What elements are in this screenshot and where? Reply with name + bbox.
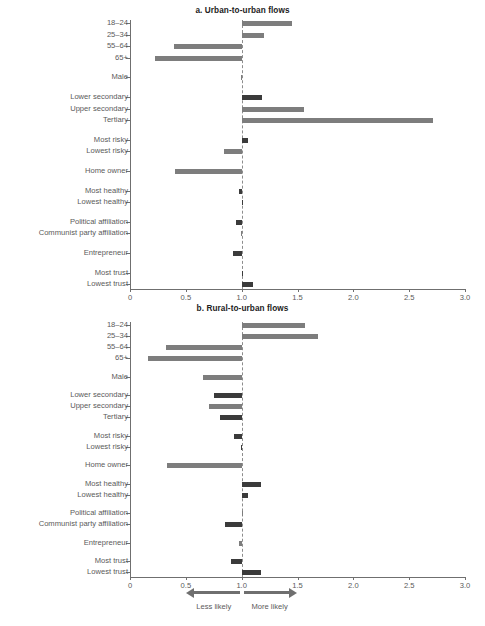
category-label: Upper secondary <box>2 402 128 410</box>
category-label: 55–64 <box>2 343 128 351</box>
x-axis-tick <box>186 289 187 292</box>
x-axis-tick <box>186 577 187 580</box>
category-label: Most risky <box>2 432 128 440</box>
bar <box>166 345 242 350</box>
bar <box>242 493 249 498</box>
category-label: Most risky <box>2 136 128 144</box>
bar <box>241 231 242 236</box>
category-label: Lowest trust <box>2 568 128 576</box>
bar <box>241 75 242 80</box>
category-label: 65+ <box>2 54 128 62</box>
bar <box>242 334 318 339</box>
bar <box>148 356 242 361</box>
category-label: Lower secondary <box>2 391 128 399</box>
arrow-right-icon <box>244 586 298 598</box>
chart-b-category-labels: 18–2425–3455–6465+MaleLower secondaryUpp… <box>0 300 128 586</box>
chart-panel-urban-to-urban: a. Urban-to-urban flows 18–2425–3455–646… <box>0 0 485 300</box>
bar <box>231 559 242 564</box>
bar <box>203 375 242 380</box>
category-label: Male <box>2 373 128 381</box>
legend-more-likely-label: More likely <box>251 602 287 611</box>
category-label: Lower secondary <box>2 93 128 101</box>
category-label: Most trust <box>2 557 128 565</box>
category-label: Home owner <box>2 167 128 175</box>
bar <box>155 56 242 61</box>
bar <box>242 282 253 287</box>
bar <box>209 404 241 409</box>
y-axis-spine <box>130 322 131 577</box>
bar <box>242 33 264 38</box>
chart-a-category-labels: 18–2425–3455–6465+MaleLower secondaryUpp… <box>0 0 128 300</box>
bar <box>242 200 243 205</box>
bar <box>242 271 243 276</box>
category-label: 25–34 <box>2 31 128 39</box>
chart-a-plot-area <box>130 20 465 289</box>
category-label: 65+ <box>2 354 128 362</box>
bar <box>174 44 242 49</box>
category-label: Most trust <box>2 269 128 277</box>
category-label: 18–24 <box>2 19 128 27</box>
category-label: 25–34 <box>2 332 128 340</box>
category-label: 55–64 <box>2 42 128 50</box>
chart-b-plot-area <box>130 322 465 577</box>
bar <box>242 118 433 123</box>
category-label: Entrepreneur <box>2 539 128 547</box>
x-axis-tick <box>130 577 131 580</box>
bar <box>239 189 241 194</box>
category-label: Lowest risky <box>2 147 128 155</box>
category-label: Upper secondary <box>2 105 128 113</box>
category-label: Lowest risky <box>2 443 128 451</box>
category-label: Political affiliation <box>2 218 128 226</box>
bar <box>242 138 249 143</box>
x-axis-tick <box>242 577 243 580</box>
x-axis-tick <box>130 289 131 292</box>
bar <box>242 95 262 100</box>
bar <box>224 149 242 154</box>
category-label: Most healthy <box>2 187 128 195</box>
category-label: Most healthy <box>2 480 128 488</box>
bar <box>225 522 242 527</box>
category-label: Male <box>2 73 128 81</box>
category-label: Lowest healthy <box>2 198 128 206</box>
bar <box>242 511 243 516</box>
category-label: Lowest healthy <box>2 491 128 499</box>
category-label: 18–24 <box>2 321 128 329</box>
x-axis-tick <box>298 289 299 292</box>
category-label: Tertiary <box>2 413 128 421</box>
category-label: Communist party affiliation <box>2 229 128 237</box>
x-axis-tick <box>353 289 354 292</box>
bar <box>175 169 242 174</box>
bar <box>242 323 306 328</box>
bar <box>236 220 242 225</box>
bar <box>220 415 241 420</box>
chart-panel-rural-to-urban: b. Rural-to-urban flows 18–2425–3455–646… <box>0 300 485 586</box>
bar <box>239 541 241 546</box>
x-axis-tick <box>409 289 410 292</box>
y-axis-spine <box>130 20 131 289</box>
direction-legend: Less likely More likely <box>0 586 485 624</box>
arrow-left-icon <box>186 586 240 598</box>
reference-line-1 <box>242 322 243 577</box>
x-axis-tick <box>353 577 354 580</box>
x-axis-tick <box>298 577 299 580</box>
bar <box>241 445 242 450</box>
x-axis-tick <box>465 577 466 580</box>
bar <box>167 463 242 468</box>
bar <box>242 482 261 487</box>
bar <box>214 393 242 398</box>
category-label: Entrepreneur <box>2 249 128 257</box>
category-label: Home owner <box>2 461 128 469</box>
bar <box>242 21 292 26</box>
reference-line-1 <box>242 20 243 289</box>
category-label: Communist party affiliation <box>2 520 128 528</box>
bar <box>234 434 242 439</box>
x-axis-tick <box>242 289 243 292</box>
category-label: Tertiary <box>2 116 128 124</box>
x-axis-tick <box>409 577 410 580</box>
x-axis-tick <box>465 289 466 292</box>
legend-less-likely-label: Less likely <box>196 602 231 611</box>
category-label: Lowest trust <box>2 280 128 288</box>
bar <box>242 107 305 112</box>
category-label: Political affiliation <box>2 509 128 517</box>
bar <box>233 251 242 256</box>
